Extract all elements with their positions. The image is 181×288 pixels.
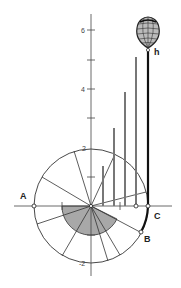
label-a: A (20, 191, 27, 201)
point-bar-foot (134, 204, 138, 208)
tick-label-2: 2 (82, 145, 86, 152)
point-b (139, 230, 143, 234)
label-h: h (154, 47, 160, 57)
label-c: C (154, 211, 161, 221)
tick-label-4: 4 (81, 86, 85, 93)
point-origin (89, 204, 92, 207)
label-b: B (144, 234, 151, 244)
unit-circle-diagram: 6 4 2 -2 (0, 0, 181, 288)
point-c (146, 204, 150, 208)
point-a (32, 204, 36, 208)
tick-label-6: 6 (81, 27, 85, 34)
diagram-canvas: 6 4 2 -2 (0, 0, 181, 288)
shaded-sector (62, 206, 117, 235)
height-bars (102, 57, 137, 206)
tick-label-neg2: -2 (79, 260, 85, 267)
